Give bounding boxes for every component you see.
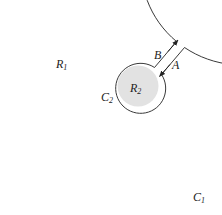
inner-region-r2: [118, 66, 159, 107]
label-r1: R1: [55, 57, 67, 72]
label-c1: C1: [193, 190, 205, 205]
label-b: B: [154, 48, 162, 62]
label-c2: C2: [101, 90, 113, 105]
contour-diagram: R1 R2 C2 C1 B A: [0, 0, 222, 215]
label-a: A: [171, 58, 180, 72]
arrow-a-icon: [160, 65, 171, 77]
arrow-b-icon: [168, 40, 178, 52]
diagram-canvas: R1 R2 C2 C1 B A: [0, 0, 222, 215]
